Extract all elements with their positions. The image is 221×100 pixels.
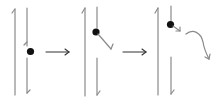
left-line-upward bbox=[12, 9, 15, 95]
panel-stage-2 bbox=[82, 7, 113, 96]
transition-arrow-2 bbox=[123, 49, 146, 55]
right-line-lower-segment bbox=[171, 57, 174, 94]
panel-stage-3 bbox=[155, 6, 210, 95]
curved-escape-trajectory bbox=[186, 31, 210, 59]
right-line-lower-segment bbox=[97, 58, 100, 95]
diagram-canvas bbox=[0, 0, 221, 100]
left-line-upward bbox=[155, 8, 158, 95]
deflected-path bbox=[98, 34, 113, 49]
particle-dot bbox=[27, 48, 34, 55]
right-line-upper-segment bbox=[24, 8, 27, 46]
transition-arrow-1 bbox=[46, 49, 69, 55]
particle-dot bbox=[167, 21, 174, 28]
right-line-lower-segment bbox=[27, 58, 30, 93]
panel-stage-1 bbox=[12, 8, 34, 95]
short-deflection bbox=[173, 26, 180, 31]
left-line-upward bbox=[82, 8, 85, 96]
